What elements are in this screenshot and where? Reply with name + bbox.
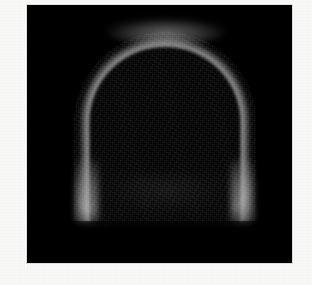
scan-image-panel[interactable]	[27, 5, 292, 263]
dome-structure	[27, 5, 292, 263]
noise-clip-region	[74, 32, 256, 227]
page-root	[0, 0, 312, 285]
base-black-mask	[27, 221, 292, 263]
coarse-grain-texture	[74, 32, 256, 227]
fine-grain-texture	[74, 32, 256, 227]
